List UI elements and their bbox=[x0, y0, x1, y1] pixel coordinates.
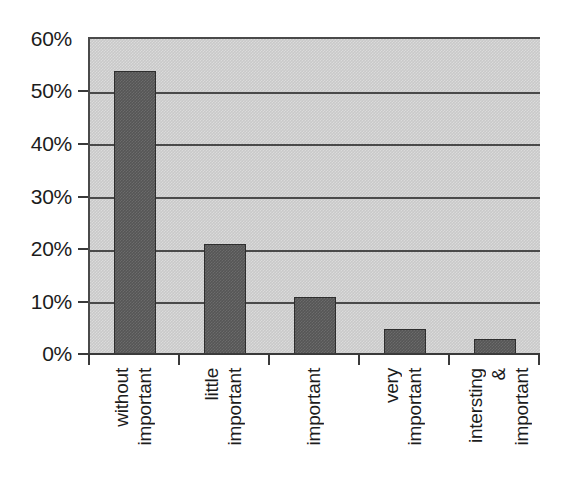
x-axis-label-little-important: little important bbox=[178, 368, 268, 484]
x-tick-mark-4 bbox=[448, 353, 450, 365]
y-tick-label-40: 40% bbox=[31, 133, 72, 154]
y-tick-label-60: 60% bbox=[31, 28, 72, 49]
y-tick-label-20: 20% bbox=[31, 238, 72, 259]
bar-very-important[interactable] bbox=[384, 329, 426, 355]
x-tick-mark-3 bbox=[358, 353, 360, 365]
x-axis-label-line: important bbox=[134, 368, 155, 445]
bar-without-important[interactable] bbox=[114, 71, 156, 355]
x-axis-label-very-important: very important bbox=[358, 368, 448, 484]
x-tick-mark-5 bbox=[538, 353, 540, 365]
y-tick-label-10: 10% bbox=[31, 291, 72, 312]
plot-area bbox=[88, 37, 540, 355]
gridline-30 bbox=[90, 197, 540, 199]
x-axis-label-line: very bbox=[381, 368, 402, 403]
bar-little-important[interactable] bbox=[204, 244, 246, 355]
x-axis-label-important: important bbox=[268, 368, 358, 484]
x-axis-label-line: important bbox=[224, 368, 245, 445]
x-axis-label-line: without bbox=[111, 368, 132, 427]
gridline-40 bbox=[90, 144, 540, 146]
x-axis-labels: without important little important impor… bbox=[0, 368, 568, 484]
x-axis-label-line: & bbox=[488, 368, 509, 380]
x-axis-label-intersting-important: intersting & important bbox=[448, 368, 548, 484]
x-axis-line bbox=[88, 353, 540, 355]
x-tick-mark-1 bbox=[178, 353, 180, 365]
x-axis-label-line: intersting bbox=[465, 368, 486, 443]
y-tick-label-30: 30% bbox=[31, 186, 72, 207]
y-tick-label-50: 50% bbox=[31, 80, 72, 101]
y-tick-label-0: 0% bbox=[42, 343, 72, 364]
gridline-50 bbox=[90, 92, 540, 94]
x-axis-label-line: important bbox=[511, 368, 532, 445]
x-tick-mark-2 bbox=[268, 353, 270, 365]
x-axis-label-without-important: without important bbox=[88, 368, 178, 484]
x-axis-label-line: important bbox=[404, 368, 425, 445]
x-axis-label-line: important bbox=[303, 368, 324, 445]
bar-important[interactable] bbox=[294, 297, 336, 355]
x-axis-label-line: little bbox=[201, 368, 222, 401]
gridline-20 bbox=[90, 250, 540, 252]
bar-chart: 60% 50% 40% 30% 20% 10% 0% without bbox=[0, 0, 568, 484]
x-tick-mark-0 bbox=[88, 353, 90, 365]
